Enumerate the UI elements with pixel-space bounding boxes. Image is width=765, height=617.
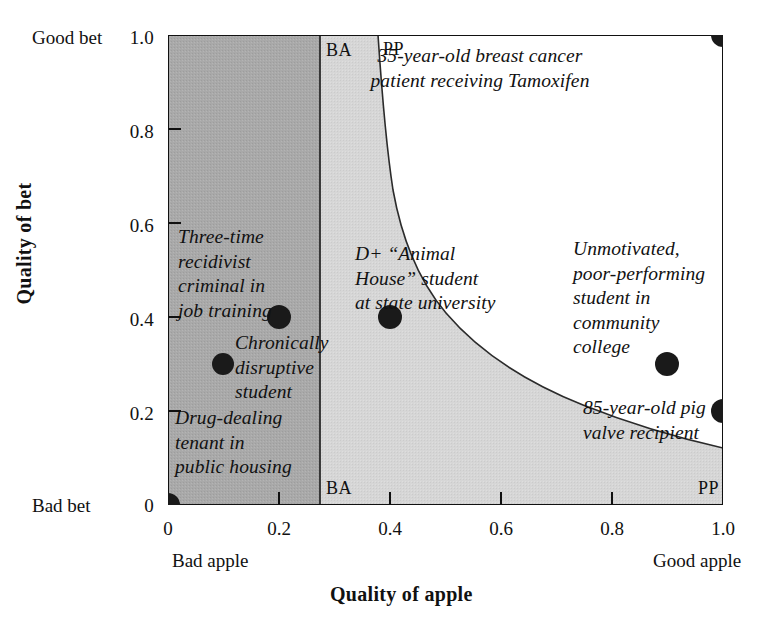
x-tick-label-0: 0 xyxy=(138,519,198,538)
y-axis-title: Quality of bet xyxy=(13,179,36,309)
y-tick-label-0: 0 xyxy=(98,496,154,515)
region-tag-pp-bottom: PP xyxy=(698,479,719,497)
y-axis-low-label: Bad bet xyxy=(32,496,91,516)
annotation-pig-valve: 85-year-old pig valve recipient xyxy=(583,396,706,445)
data-point-chronically-disruptive[interactable] xyxy=(212,353,234,375)
x-axis-tick-labels: 0 0.2 0.4 0.6 0.8 1.0 xyxy=(0,519,765,545)
x-axis-title: Quality of apple xyxy=(330,583,473,606)
x-tick-label-0.6: 0.6 xyxy=(471,519,531,538)
annotation-drug-dealing: Drug-dealing tenant in public housing xyxy=(175,406,292,480)
y-tick-label-0.8: 0.8 xyxy=(98,122,154,141)
x-tick-label-1.0: 1.0 xyxy=(693,519,753,538)
annotation-animal-house: D+ “Animal House” student at state unive… xyxy=(355,242,496,316)
y-tick-label-1.0: 1.0 xyxy=(98,28,154,47)
x-tick-label-0.8: 0.8 xyxy=(582,519,642,538)
x-tick-label-0.4: 0.4 xyxy=(360,519,420,538)
region-tag-ba-top: BA xyxy=(326,41,352,59)
annotation-recidivist: Three-time recidivist criminal in job tr… xyxy=(178,225,272,323)
x-tick-label-0.2: 0.2 xyxy=(249,519,309,538)
x-axis-low-label: Bad apple xyxy=(172,551,249,571)
annotation-unmotivated: Unmotivated, poor-performing student in … xyxy=(573,237,705,360)
x-axis-high-label: Good apple xyxy=(653,551,741,571)
y-tick-label-0.2: 0.2 xyxy=(98,404,154,423)
y-tick-label-0.6: 0.6 xyxy=(98,216,154,235)
y-tick-label-0.4: 0.4 xyxy=(98,310,154,329)
region-tag-ba-bottom: BA xyxy=(326,479,352,497)
annotation-breast-cancer: 35-year-old breast cancer patient receiv… xyxy=(371,44,590,93)
annotation-chronically-disruptive: Chronically disruptive student xyxy=(235,331,329,405)
y-axis-high-label: Good bet xyxy=(32,28,102,48)
